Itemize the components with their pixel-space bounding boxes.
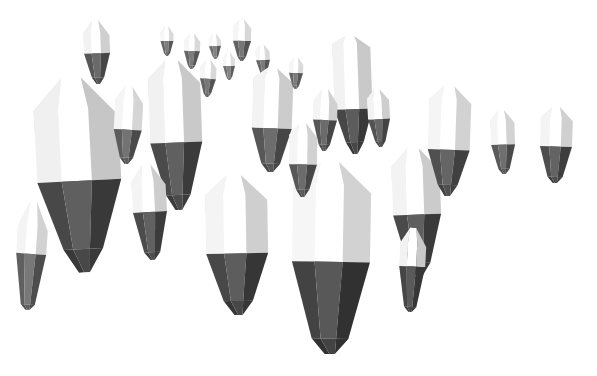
facet-crown-highlight (344, 36, 355, 46)
facet-crown-highlight (551, 107, 560, 119)
facet-crown-highlight (443, 86, 455, 102)
facet-split-seam (189, 51, 195, 52)
facet-crown-highlight (239, 19, 244, 27)
facet-split-seam (263, 128, 278, 132)
crystal-scene: Low-poly crystal field floating faceted … (0, 0, 597, 376)
facet-crown-highlight (91, 20, 99, 34)
facet-crown-highlight (225, 175, 243, 198)
facet-split-seam (165, 142, 184, 147)
facet-split-seam (164, 41, 169, 42)
facet-split-seam (238, 41, 245, 42)
facet-crown-highlight (213, 33, 217, 40)
facet-crown-highlight (407, 148, 421, 169)
facet-split-seam (212, 46, 216, 47)
facet-split-seam (498, 144, 507, 146)
facet-crown-highlight (319, 162, 341, 189)
facet-crown-highlight (206, 59, 211, 68)
facet-split-seam (224, 253, 246, 258)
facet-crown-highlight (165, 26, 169, 33)
facet-crown-highlight (267, 68, 279, 81)
facet-crown-highlight (409, 228, 417, 245)
facet-crown-highlight (60, 77, 85, 113)
facet-crown-highlight (165, 60, 180, 81)
facet-crown-highlight (294, 57, 298, 64)
facet-split-seam (297, 164, 307, 166)
facet-split-seam (407, 266, 416, 269)
facet-crown-highlight (322, 89, 329, 103)
facet-split-seam (314, 262, 342, 268)
facet-crown-highlight (190, 33, 195, 41)
facet-split-seam (293, 73, 298, 74)
facet-split-seam (320, 120, 329, 122)
facet-split-seam (549, 146, 561, 149)
facet-split-seam (407, 214, 424, 218)
facet-crown-highlight (124, 86, 133, 102)
facet-split-seam (346, 109, 360, 113)
facet-split-seam (440, 149, 455, 153)
facet-upper-front-lit (343, 36, 359, 110)
facet-crown-highlight (227, 52, 230, 59)
facet-crown-highlight (498, 110, 505, 122)
facet-split-seam (92, 53, 101, 55)
facet-crown-highlight (299, 123, 307, 136)
facet-split-seam (226, 66, 230, 67)
crystal-render-canvas (0, 0, 597, 376)
